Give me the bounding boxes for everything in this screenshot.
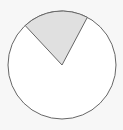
pie-chart xyxy=(0,0,123,130)
